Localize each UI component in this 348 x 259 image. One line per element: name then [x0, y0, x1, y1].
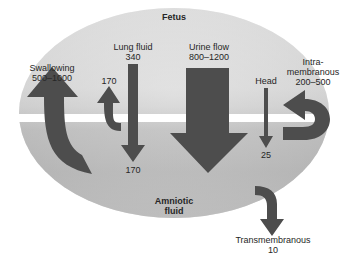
amniotic-fluid-label: Amniotic fluid: [134, 196, 214, 216]
swallowing-label: Swallowing 500–1000: [6, 63, 98, 83]
swallowing-label-text: Swallowing: [29, 63, 74, 73]
fetus-label: Fetus: [142, 12, 206, 22]
amniotic-fluid-line2: fluid: [134, 206, 214, 216]
transmembranous-arrow: [255, 186, 284, 236]
lung-fluid-down-value: 170: [112, 165, 154, 175]
transmembranous-value: 10: [213, 245, 333, 255]
fluid-exchange-diagram: Fetus Swallowing 500–1000 Lung fluid 340…: [0, 0, 348, 259]
intramembranous-label-line2: membranous: [278, 67, 348, 77]
compartment-ellipse: [19, 8, 329, 218]
urine-flow-label-text: Urine flow: [189, 42, 229, 52]
transmembranous-label-text: Transmembranous: [235, 235, 310, 245]
lung-fluid-label: Lung fluid 340: [98, 42, 168, 62]
lung-fluid-label-text: Lung fluid: [113, 42, 152, 52]
lung-fluid-up-value: 170: [88, 76, 130, 86]
lung-fluid-value: 340: [98, 52, 168, 62]
urine-flow-label: Urine flow 800–1200: [171, 42, 247, 62]
intramembranous-value: 200–500: [278, 77, 348, 87]
transmembranous-label: Transmembranous 10: [213, 235, 333, 255]
amniotic-fluid-line1: Amniotic: [155, 196, 194, 206]
urine-flow-value: 800–1200: [171, 52, 247, 62]
diagram-canvas: [0, 0, 348, 259]
intramembranous-label: Intra- membranous 200–500: [278, 57, 348, 87]
swallowing-value: 500–1000: [6, 73, 98, 83]
head-value: 25: [246, 150, 286, 160]
intramembranous-label-line1: Intra-: [302, 57, 323, 67]
